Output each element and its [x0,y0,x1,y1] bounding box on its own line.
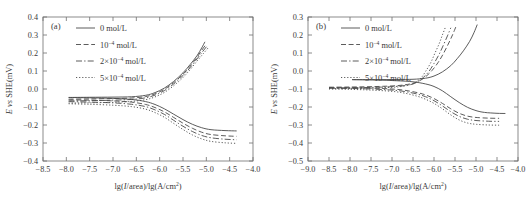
x-tick-label: −9.0 [300,165,315,174]
curve-anodic [69,44,207,99]
x-tick-label: −4.5 [222,165,237,174]
y-tick-label: 0.3 [28,31,38,40]
y-tick-label: −0.4 [23,157,38,166]
x-tick-label: −5.5 [176,165,191,174]
x-tick-label: −5.5 [447,165,462,174]
y-tick-label: 0.2 [292,31,302,40]
legend-label-3: 5×10−4 mol/L [365,73,411,83]
panel-a-plot: −8.5−8.0−7.5−7.0−6.5−6.0−5.5−5.0−4.5−4.0… [0,0,264,221]
panel-a: −8.5−8.0−7.5−7.0−6.5−6.0−5.5−5.0−4.5−4.0… [0,0,265,221]
y-tick-label: −0.5 [288,157,303,166]
panel-b: −9.0−8.5−8.0−7.5−7.0−6.5−6.0−5.5−5.0−4.5… [265,0,529,221]
x-tick-label: −8.5 [321,165,336,174]
x-tick-label: −5.0 [468,165,483,174]
y-tick-label: 0.0 [292,67,302,76]
x-tick-label: −8.5 [36,165,51,174]
x-tick-label: −8.0 [59,165,74,174]
legend-label-0: 0 mol/L [100,24,127,33]
y-tick-label: 0.0 [28,85,38,94]
y-tick-label: −0.2 [288,103,303,112]
y-axis-title: E vs SHE(mV) [270,64,279,115]
curve-cathodic [69,104,237,144]
curve-cathodic [69,102,237,140]
panel-b-plot: −9.0−8.5−8.0−7.5−7.0−6.5−6.0−5.5−5.0−4.5… [265,0,529,221]
panel-tag: (a) [51,21,61,31]
legend-label-2: 2×10−4 mol/L [365,56,411,66]
plot-frame [43,17,253,161]
x-tick-label: −4.5 [489,165,504,174]
x-tick-label: −6.5 [405,165,420,174]
curve-cathodic [329,88,499,119]
x-axis-title: lg(I/area)/lg(A/cm2) [115,181,182,191]
curve-anodic [69,42,205,98]
x-tick-label: −4.0 [246,165,261,174]
x-tick-label: −6.0 [426,165,441,174]
x-tick-label: −7.5 [82,165,97,174]
legend-label-0: 0 mol/L [365,24,392,33]
x-tick-label: −5.0 [199,165,214,174]
y-tick-label: −0.3 [288,121,303,130]
legend-label-3: 5×10−4 mol/L [100,73,146,83]
y-tick-label: −0.3 [23,139,38,148]
x-tick-label: −6.5 [129,165,144,174]
x-tick-label: −6.0 [152,165,167,174]
y-tick-label: 0.1 [28,67,38,76]
curve-cathodic [329,88,499,121]
legend-label-2: 2×10−4 mol/L [100,56,146,66]
x-tick-label: −7.5 [363,165,378,174]
y-axis-title: E vs SHE(mV) [5,64,14,115]
y-tick-label: −0.4 [288,139,303,148]
x-tick-label: −8.0 [342,165,357,174]
y-tick-label: 0.2 [28,49,38,58]
legend-label-1: 10−4 mol/L [100,40,137,50]
y-tick-label: −0.1 [23,103,38,112]
panel-tag: (b) [316,21,326,31]
y-tick-label: 0.4 [28,13,38,22]
x-tick-label: −7.0 [106,165,121,174]
x-tick-label: −7.0 [384,165,399,174]
curve-cathodic [69,100,237,137]
polarization-curve-figure: −8.5−8.0−7.5−7.0−6.5−6.0−5.5−5.0−4.5−4.0… [0,0,529,221]
x-tick-label: −4.0 [510,165,525,174]
y-tick-label: −0.1 [288,85,303,94]
curve-cathodic [329,89,499,125]
y-tick-label: 0.3 [292,13,302,22]
legend-label-1: 10−4 mol/L [365,40,402,50]
y-tick-label: 0.1 [292,49,302,58]
x-axis-title: lg(I/area)/lg(A/cm2) [379,181,446,191]
y-tick-label: −0.2 [23,121,38,130]
